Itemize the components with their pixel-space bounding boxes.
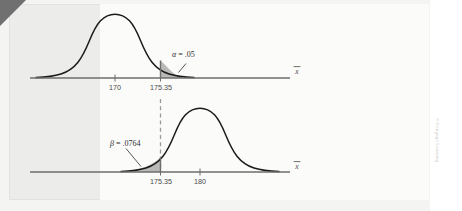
alpha-value: = .05 [176,50,195,59]
bottom-tick-label-180: 180 [194,177,206,186]
bottom-tick-label-175-35: 175.35 [150,177,172,186]
beta-leader-line [126,149,141,167]
null-distribution-curve [36,14,194,77]
top-axis-variable: x [294,67,299,76]
bottom-axis-variable: x [294,162,299,171]
top-panel-group: 170 175.35 α = .05 x [30,14,300,92]
beta-annotation: β = .0764 [109,139,141,148]
distribution-figure: 170 175.35 α = .05 x [0,0,462,211]
top-tick-label-170: 170 [109,83,121,92]
alpha-annotation: α = .05 [172,50,195,59]
beta-value: = .0764 [114,139,141,148]
alternative-distribution-curve [121,108,279,171]
top-tick-label-175-35: 175.35 [150,83,172,92]
alpha-leader-line [179,64,187,73]
figure-root: © Cengage Learning 170 175.35 α = .05 [0,0,462,211]
bottom-panel-group: 175.35 180 β = .0764 x [30,108,300,186]
